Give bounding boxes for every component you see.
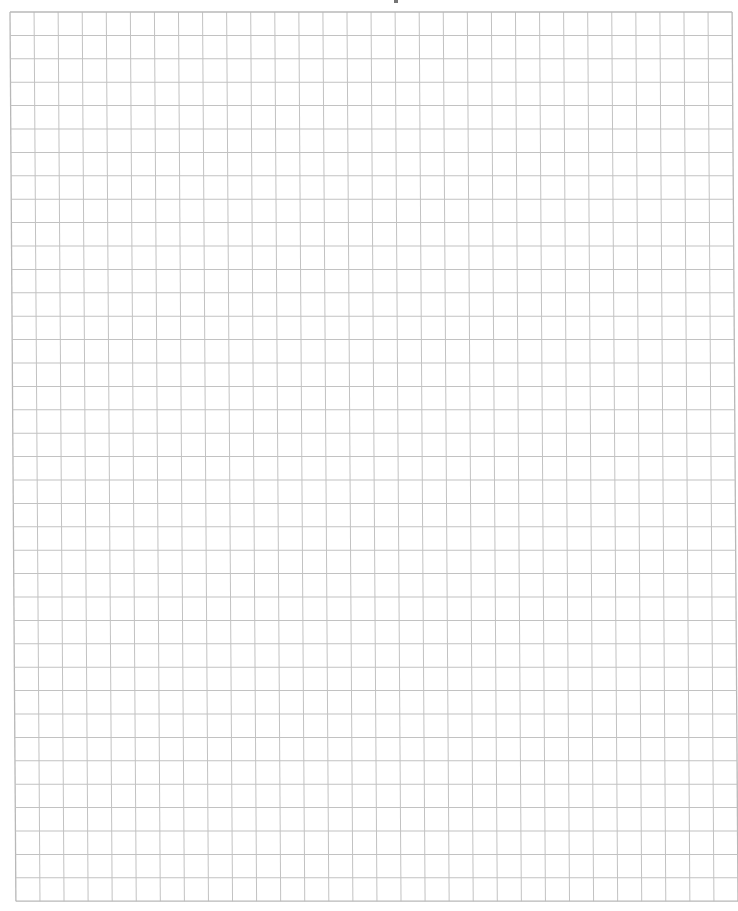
- graph-paper-page: [0, 0, 738, 911]
- scan-mark: [394, 0, 398, 3]
- grid-area: [10, 12, 738, 901]
- graph-grid: [10, 12, 738, 901]
